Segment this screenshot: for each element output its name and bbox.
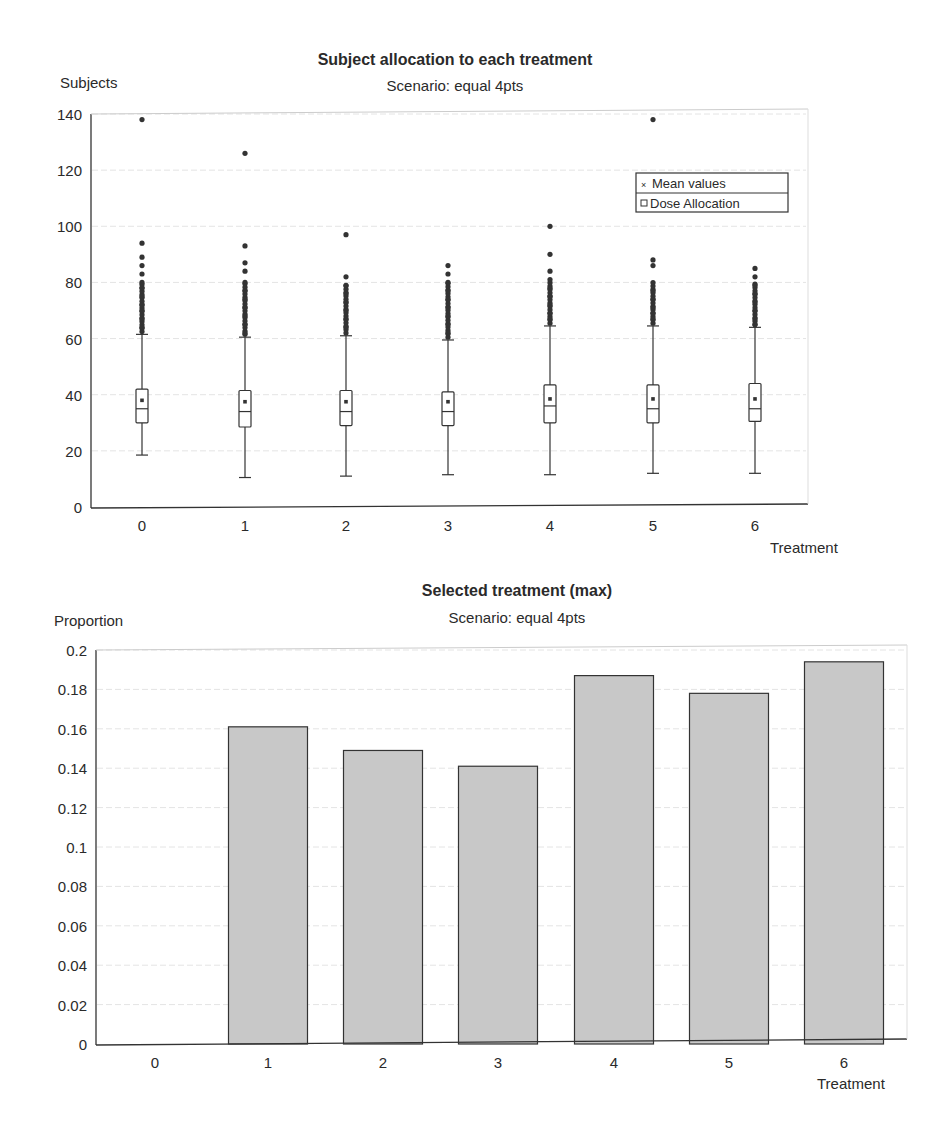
x-tick-label: 2 [379,1054,387,1071]
x-tick-label: 4 [610,1054,618,1071]
boxplot-chart: Subject allocation to each treatment Sce… [0,0,943,570]
x-tick-label: 6 [751,517,759,534]
mean-marker [753,397,757,401]
bar-treatment-3 [459,766,538,1044]
mean-marker-icon: × [641,180,646,190]
x-tick-label: 3 [494,1054,502,1071]
y-tick-label: 0.16 [58,721,87,738]
boxplot-x-axis [91,504,808,508]
boxplot-subtitle: Scenario: equal 4pts [387,77,524,94]
y-tick-label: 0.2 [66,642,87,659]
y-tick-label: 0 [79,1036,87,1053]
x-tick-label: 0 [151,1054,159,1071]
y-tick-label: 0 [74,499,82,516]
boxplot-x-axis-label: Treatment [770,539,839,556]
mean-marker [344,400,348,404]
mean-marker [140,399,144,403]
bar-title: Selected treatment (max) [422,582,612,599]
bar-y-axis-label: Proportion [54,612,123,629]
bar-treatment-2 [344,750,423,1044]
x-tick-label: 4 [546,517,554,534]
bar-subtitle: Scenario: equal 4pts [449,609,586,626]
box-treatment-4 [544,224,556,475]
boxplot-frame-top [91,109,808,114]
y-tick-label: 0.1 [66,839,87,856]
bar-treatment-1 [229,727,308,1044]
y-tick-label: 0.02 [58,997,87,1014]
box-treatment-1 [239,151,251,478]
bar-chart: Selected treatment (max) Scenario: equal… [0,570,943,1122]
bar-x-axis-label: Treatment [817,1075,886,1092]
x-tick-label: 3 [444,517,452,534]
x-tick-label: 5 [649,517,657,534]
y-tick-label: 60 [65,331,82,348]
bar-treatment-5 [690,693,769,1044]
boxplot-y-axis-label: Subjects [60,74,118,91]
y-tick-label: 140 [57,106,82,123]
bar-treatment-6 [805,662,884,1044]
y-tick-label: 100 [57,218,82,235]
bar-x-ticks: 0123456 [151,1054,848,1071]
box-treatment-6 [749,266,761,474]
mean-marker [243,400,247,404]
legend-box-label: Dose Allocation [650,196,740,211]
x-tick-label: 1 [264,1054,272,1071]
y-tick-label: 40 [65,387,82,404]
box-treatment-0 [136,117,148,455]
y-tick-label: 20 [65,443,82,460]
mean-marker [446,400,450,404]
boxplot-series [136,117,761,478]
y-tick-label: 0.06 [58,918,87,935]
x-tick-label: 6 [840,1054,848,1071]
box-treatment-3 [442,263,454,475]
x-tick-label: 5 [725,1054,733,1071]
bar-frame-top [96,645,907,650]
y-tick-label: 0.04 [58,957,87,974]
bar-series [229,662,884,1044]
boxplot-y-ticks: 020406080100120140 [57,106,82,516]
boxplot-x-ticks: 0123456 [138,517,759,534]
boxplot-legend: × Mean values Dose Allocation [636,173,788,212]
y-tick-label: 0.14 [58,760,87,777]
y-tick-label: 0.08 [58,878,87,895]
legend-mean-label: Mean values [652,176,726,191]
y-tick-label: 0.18 [58,681,87,698]
x-tick-label: 1 [241,517,249,534]
y-tick-label: 0.12 [58,800,87,817]
x-tick-label: 2 [342,517,350,534]
bar-y-ticks: 00.020.040.060.080.10.120.140.160.180.2 [58,642,87,1053]
bar-treatment-4 [575,676,654,1044]
x-tick-label: 0 [138,517,146,534]
mean-marker [651,397,655,401]
boxplot-title: Subject allocation to each treatment [318,51,593,68]
mean-marker [548,397,552,401]
y-tick-label: 120 [57,162,82,179]
box-treatment-2 [340,232,352,476]
y-tick-label: 80 [65,274,82,291]
